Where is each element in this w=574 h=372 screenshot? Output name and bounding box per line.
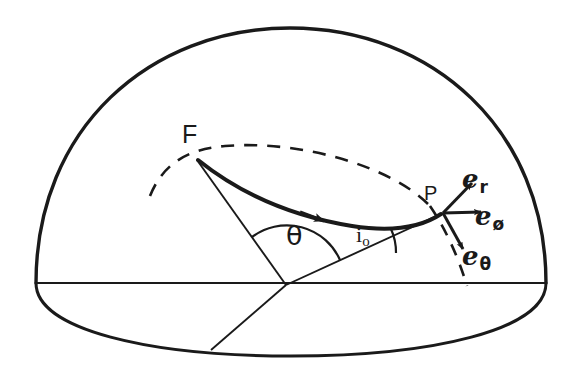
vector-base-e-phi: e <box>475 201 492 231</box>
label-unit-vector-e-r: er <box>462 166 488 196</box>
label-inclination-subscript: o <box>362 233 370 249</box>
label-angle-theta: θ <box>286 222 303 249</box>
label-unit-vector-e-theta: eθ <box>462 243 491 273</box>
equator-front-rim <box>36 283 546 356</box>
radius-center-to-front-rim <box>211 285 286 350</box>
vector-subscript-theta: θ <box>480 254 492 274</box>
vector-subscript-phi: ø <box>493 214 505 234</box>
vector-base-e-theta: e <box>462 241 479 271</box>
label-angle-inclination: io <box>356 224 370 249</box>
spherical-geometry-diagram: F P θ io er eø eθ <box>0 0 574 372</box>
label-unit-vector-e-phi: eø <box>475 203 504 233</box>
label-point-P: P <box>424 183 437 203</box>
radius-center-to-F <box>197 160 286 285</box>
label-point-F: F <box>182 122 197 147</box>
orbit-great-circle-dashed-far <box>150 145 428 204</box>
vector-base-e-r: e <box>462 164 479 194</box>
vector-subscript-r: r <box>480 177 488 197</box>
angle-arc-inclination <box>391 229 396 253</box>
